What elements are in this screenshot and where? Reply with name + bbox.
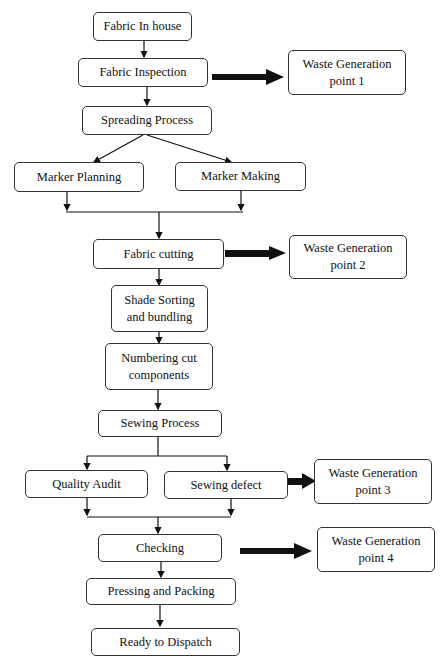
node-label-line1: Numbering cut xyxy=(121,350,196,367)
node-label: Quality Audit xyxy=(52,476,120,493)
node-ready-to-dispatch: Ready to Dispatch xyxy=(91,628,240,656)
node-label: Marker Planning xyxy=(37,169,121,186)
node-label: Ready to Dispatch xyxy=(119,634,211,651)
waste-label-line2: point 1 xyxy=(329,73,364,90)
node-pressing-and-packing: Pressing and Packing xyxy=(86,578,236,605)
node-fabric-inspection: Fabric Inspection xyxy=(78,58,208,87)
node-label: Marker Making xyxy=(201,168,280,185)
node-label: Fabric Inspection xyxy=(99,64,186,81)
waste-point-2: Waste Generation point 2 xyxy=(289,235,407,279)
node-fabric-cutting: Fabric cutting xyxy=(93,239,224,269)
waste-point-1: Waste Generation point 1 xyxy=(288,50,406,95)
node-label: Fabric In house xyxy=(104,18,182,35)
node-sewing-defect: Sewing defect xyxy=(164,471,288,499)
node-label: Sewing Process xyxy=(121,415,200,432)
waste-label-line1: Waste Generation xyxy=(329,465,418,482)
waste-label-line2: point 2 xyxy=(330,257,365,274)
waste-point-4: Waste Generation point 4 xyxy=(317,527,435,572)
node-label-line1: Shade Sorting xyxy=(124,292,194,309)
node-label: Spreading Process xyxy=(101,112,193,129)
node-checking: Checking xyxy=(98,534,222,562)
node-spreading-process: Spreading Process xyxy=(82,106,212,135)
waste-label-line2: point 3 xyxy=(355,482,390,499)
waste-point-3: Waste Generation point 3 xyxy=(314,459,432,504)
node-label: Fabric cutting xyxy=(124,246,194,263)
waste-label-line1: Waste Generation xyxy=(303,56,392,73)
node-marker-planning: Marker Planning xyxy=(14,162,144,192)
node-label: Pressing and Packing xyxy=(108,583,215,600)
waste-label-line1: Waste Generation xyxy=(332,533,421,550)
node-label: Sewing defect xyxy=(190,477,261,494)
node-label: Checking xyxy=(136,540,184,557)
node-quality-audit: Quality Audit xyxy=(25,470,148,498)
waste-label-line1: Waste Generation xyxy=(304,240,393,257)
node-sewing-process: Sewing Process xyxy=(98,410,222,437)
node-label-line2: components xyxy=(129,367,189,384)
node-fabric-in-house: Fabric In house xyxy=(93,12,192,41)
node-marker-making: Marker Making xyxy=(175,162,306,191)
node-label-line2: and bundling xyxy=(127,309,193,326)
node-shade-sorting: Shade Sorting and bundling xyxy=(111,285,208,332)
waste-label-line2: point 4 xyxy=(358,550,393,567)
node-numbering-cut-components: Numbering cut components xyxy=(105,343,213,390)
